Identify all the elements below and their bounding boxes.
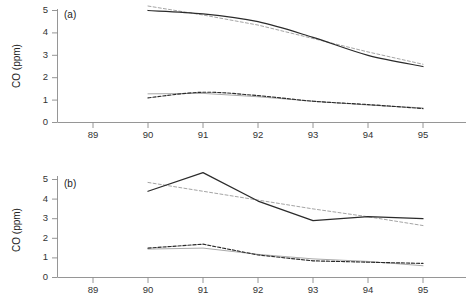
x-tick-label-93: 93 xyxy=(308,284,319,295)
x-tick-label-92: 92 xyxy=(253,284,264,295)
panel-label-b: (b) xyxy=(64,178,76,189)
series-upper-observed xyxy=(148,173,423,221)
x-tick-label-89: 89 xyxy=(88,284,99,295)
y-tick-label-5: 5 xyxy=(43,173,48,184)
x-tick-label-91: 91 xyxy=(198,284,209,295)
x-tick-label-90: 90 xyxy=(143,284,154,295)
panel-a: 0 1 2 3 4 5 89 90 91 92 93 94 xyxy=(0,0,474,152)
y-tick-label-0: 0 xyxy=(43,271,48,282)
y-tick-label-1: 1 xyxy=(43,251,48,262)
panel-b-axes xyxy=(58,176,467,278)
x-tick-label-92: 92 xyxy=(253,129,264,140)
co-timeseries-figure: 0 1 2 3 4 5 89 90 91 92 93 94 xyxy=(0,0,474,305)
y-tick-label-2: 2 xyxy=(43,71,48,82)
panel-a-y-ticks: 0 1 2 3 4 5 xyxy=(43,4,58,127)
y-axis-title: CO (ppm) xyxy=(11,208,22,252)
x-tick-label-91: 91 xyxy=(198,129,209,140)
x-tick-label-94: 94 xyxy=(363,129,374,140)
y-tick-label-4: 4 xyxy=(43,193,48,204)
panel-b-plot: 0 1 2 3 4 5 89 90 91 92 93 94 xyxy=(0,152,474,304)
series-upper-trend xyxy=(148,6,423,64)
series-upper-observed xyxy=(148,11,423,67)
y-tick-label-2: 2 xyxy=(43,232,48,243)
panel-b: 0 1 2 3 4 5 89 90 91 92 93 94 xyxy=(0,152,474,304)
panel-b-x-ticks: 89 90 91 92 93 94 95 xyxy=(88,278,429,296)
y-axis-title: CO (ppm) xyxy=(11,44,22,88)
x-tick-label-90: 90 xyxy=(143,129,154,140)
panel-a-x-ticks: 89 90 91 92 93 94 95 xyxy=(88,123,429,141)
x-tick-label-95: 95 xyxy=(418,284,429,295)
x-tick-label-95: 95 xyxy=(418,129,429,140)
y-tick-label-0: 0 xyxy=(43,116,48,127)
x-tick-label-89: 89 xyxy=(88,129,99,140)
series-lower-observed xyxy=(148,244,423,263)
y-tick-label-4: 4 xyxy=(43,26,48,37)
panel-a-plot: 0 1 2 3 4 5 89 90 91 92 93 94 xyxy=(0,0,474,152)
panel-label-a: (a) xyxy=(64,9,76,20)
panel-b-y-ticks: 0 1 2 3 4 5 xyxy=(43,173,58,282)
y-tick-label-3: 3 xyxy=(43,49,48,60)
x-tick-label-93: 93 xyxy=(308,129,319,140)
x-tick-label-94: 94 xyxy=(363,284,374,295)
series-lower-trend xyxy=(148,248,423,266)
y-tick-label-3: 3 xyxy=(43,212,48,223)
y-tick-label-1: 1 xyxy=(43,94,48,105)
y-tick-label-5: 5 xyxy=(43,4,48,15)
series-upper-trend xyxy=(148,182,423,225)
